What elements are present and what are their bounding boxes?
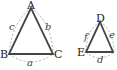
vertex-e-label: E <box>77 46 85 59</box>
side-f-label: f <box>83 31 90 42</box>
diagram-canvas: A B C c b a D E f e d <box>0 0 117 70</box>
side-a-label: a <box>27 57 33 68</box>
side-b-label: b <box>45 21 51 32</box>
side-e-label: e <box>109 29 115 40</box>
vertex-b-label: B <box>0 48 8 61</box>
vertex-d-label: D <box>96 12 105 25</box>
triangle-abc: A B C c b a <box>0 0 62 68</box>
side-c-label: c <box>9 21 15 32</box>
vertex-a-label: A <box>26 0 36 12</box>
vertex-c-label: C <box>54 48 62 61</box>
side-d-label: d <box>97 54 103 65</box>
triangle-def: D E f e d <box>77 12 115 65</box>
